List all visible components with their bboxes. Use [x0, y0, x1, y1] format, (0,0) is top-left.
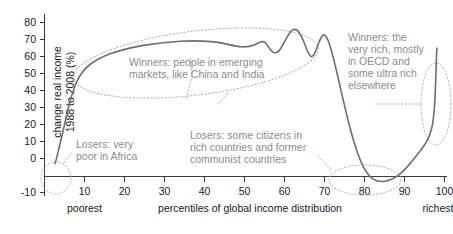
y-tick-label-50: 50	[24, 67, 36, 79]
callout-leader-trough	[318, 156, 331, 170]
x-tick-label-30: 30	[159, 185, 171, 197]
x-tick-label-20: 20	[119, 185, 131, 197]
callout-ellipse-africa	[41, 162, 71, 194]
annotation-losers-rich-communist: Losers: some citizens in rich countries …	[190, 129, 307, 165]
annotation-winners-very-rich-line1: Winners: the	[348, 31, 407, 43]
elephant-curve-chart: 80 70 60 50 40 30 20 10 0 -10 10 20	[0, 0, 453, 234]
y-tick-label-20: 20	[24, 118, 36, 130]
y-tick-label-neg10: -10	[21, 186, 36, 198]
annotation-winners-very-rich-line5: elsewhere	[348, 79, 396, 91]
annotation-winners-very-rich-line3: in OECD and	[348, 55, 410, 67]
x-tick-label-50: 50	[239, 185, 251, 197]
x-tick-label-70: 70	[319, 185, 331, 197]
x-axis-high-anchor: richest	[423, 202, 453, 214]
x-tick-label-60: 60	[279, 185, 291, 197]
annotation-winners-very-rich-line4: some ultra rich	[348, 67, 417, 79]
y-tick-label-10: 10	[24, 135, 36, 147]
annotation-winners-very-rich-line2: very rich, mostly	[348, 43, 425, 55]
annotation-winners-very-rich: Winners: the very rich, mostly in OECD a…	[348, 31, 425, 91]
x-tick-label-90: 90	[399, 185, 411, 197]
y-axis-tick-labels: 80 70 60 50 40 30 20 10 0 -10	[21, 16, 36, 198]
y-tick-label-80: 80	[24, 16, 36, 28]
y-tick-label-70: 70	[24, 33, 36, 45]
annotation-winners-emerging: Winners: people in emerging markets, lik…	[129, 56, 265, 80]
annotation-losers-africa-line1: Losers: very	[76, 138, 134, 150]
x-tick-label-10: 10	[79, 185, 91, 197]
callout-leader-africa	[64, 152, 72, 163]
annotation-winners-emerging-line1: Winners: people in emerging	[129, 56, 263, 68]
x-axis-low-anchor: poorest	[67, 202, 102, 214]
annotation-winners-emerging-line2: markets, like China and India	[129, 68, 265, 80]
x-tick-label-80: 80	[359, 185, 371, 197]
y-tick-label-40: 40	[24, 84, 36, 96]
y-axis-title-line1: change real income	[51, 46, 63, 138]
annotation-losers-africa-line2: poor in Africa	[76, 150, 137, 162]
x-tick-label-40: 40	[199, 185, 211, 197]
annotation-losers-africa: Losers: very poor in Africa	[76, 138, 137, 162]
callout-leader-emerging-2	[218, 93, 228, 104]
x-tick-label-100: 100	[436, 185, 453, 197]
annotation-losers-rich-communist-line2: rich countries and former	[190, 141, 307, 153]
y-tick-label-30: 30	[24, 101, 36, 113]
y-tick-label-60: 60	[24, 50, 36, 62]
annotation-losers-rich-communist-line3: communist countries	[190, 153, 286, 165]
y-tick-label-0: 0	[30, 152, 36, 164]
chart-container: 80 70 60 50 40 30 20 10 0 -10 10 20	[0, 0, 453, 234]
annotation-losers-rich-communist-line1: Losers: some citizens in	[190, 129, 302, 141]
x-axis-title: percentiles of global income distributio…	[158, 202, 342, 214]
y-axis-ticks	[40, 23, 45, 193]
